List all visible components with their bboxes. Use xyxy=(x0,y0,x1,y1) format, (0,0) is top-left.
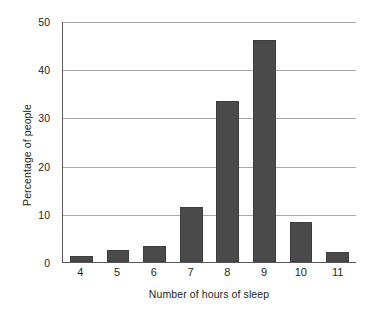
bar-slot-7 xyxy=(173,22,210,262)
x-tick-label-7: 7 xyxy=(172,267,209,278)
y-tick-label-0: 0 xyxy=(20,258,50,269)
x-tick-label-11: 11 xyxy=(319,267,356,278)
bar-slot-9 xyxy=(246,22,283,262)
x-tick-label-6: 6 xyxy=(136,267,173,278)
y-tick-label-10: 10 xyxy=(20,210,50,221)
bar-7[interactable] xyxy=(180,207,203,262)
y-tick-label-20: 20 xyxy=(20,161,50,172)
bar-10[interactable] xyxy=(290,222,313,262)
bar-11[interactable] xyxy=(326,252,349,262)
x-tick-label-10: 10 xyxy=(283,267,320,278)
x-tick-label-4: 4 xyxy=(62,267,99,278)
x-tick-label-8: 8 xyxy=(209,267,246,278)
y-tick-label-30: 30 xyxy=(20,113,50,124)
bar-9[interactable] xyxy=(253,40,276,262)
bars-layer xyxy=(63,22,356,262)
x-tick-label-9: 9 xyxy=(246,267,283,278)
plot-area xyxy=(62,22,356,263)
x-axis-tick-labels: 4 5 6 7 8 9 10 11 xyxy=(62,267,356,278)
bar-slot-10 xyxy=(283,22,320,262)
bar-4[interactable] xyxy=(70,256,93,262)
y-tick-label-40: 40 xyxy=(20,65,50,76)
bar-6[interactable] xyxy=(143,246,166,262)
bar-slot-5 xyxy=(100,22,137,262)
bar-5[interactable] xyxy=(107,250,130,262)
x-tick-label-5: 5 xyxy=(99,267,136,278)
x-axis-title: Number of hours of sleep xyxy=(62,288,356,300)
bar-slot-11 xyxy=(319,22,356,262)
y-tick-label-50: 50 xyxy=(20,17,50,28)
bar-slot-8 xyxy=(210,22,247,262)
bar-chart-figure: Percentage of people 50 40 30 20 10 0 xyxy=(0,0,384,310)
bar-8[interactable] xyxy=(216,101,239,262)
bar-slot-4 xyxy=(63,22,100,262)
bar-slot-6 xyxy=(136,22,173,262)
